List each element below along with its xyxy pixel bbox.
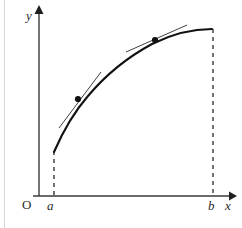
x-tick-label-a: a	[47, 199, 54, 212]
y-axis-label: y	[26, 9, 32, 22]
tangent-point-marker-1	[75, 96, 81, 102]
function-curve	[54, 29, 212, 152]
origin-label: O	[22, 198, 31, 211]
x-axis-label: x	[225, 199, 231, 212]
graph-canvas	[0, 0, 242, 228]
figure-container: y x O a b	[0, 0, 242, 228]
y-axis-arrowhead	[35, 5, 44, 14]
tangent-point-marker-2	[152, 37, 158, 43]
x-tick-label-b: b	[208, 199, 215, 212]
